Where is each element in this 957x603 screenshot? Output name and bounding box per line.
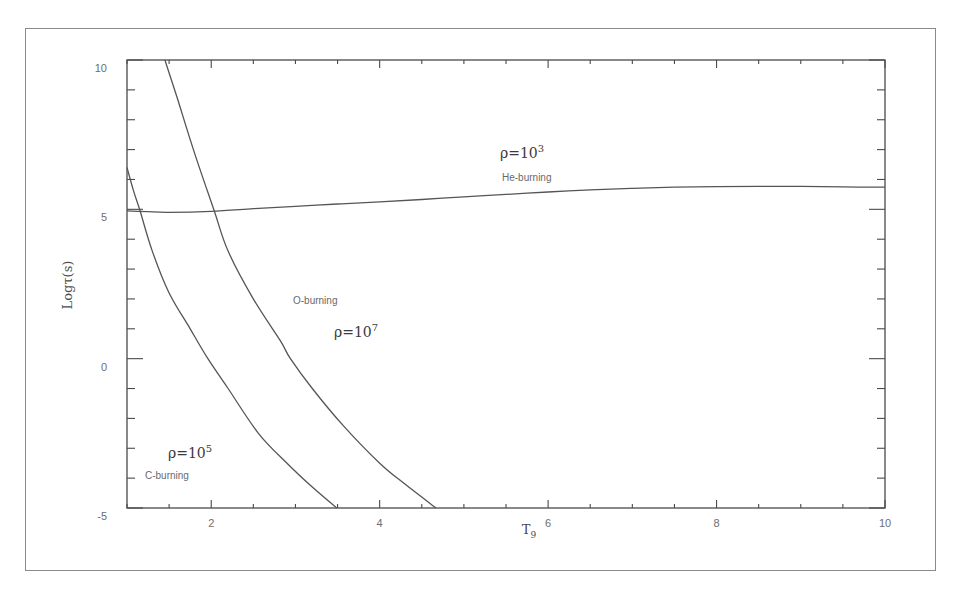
data-series: [127, 60, 885, 508]
o-density-label: ρ=107: [334, 322, 378, 340]
o-burning-label: O-burning: [293, 295, 337, 306]
c-density-label: ρ=105: [168, 443, 212, 461]
c-burning-curve: [127, 168, 337, 509]
x-tick-label: 8: [713, 517, 719, 529]
y-tick-label: 0: [101, 361, 107, 373]
y-axis-tick-labels: -50510: [95, 62, 107, 522]
y-axis-title: Logτ(s): [60, 261, 75, 310]
c-burning-annotation: ρ=105 C-burning: [145, 443, 212, 481]
o-burning-annotation: O-burning ρ=107: [293, 295, 378, 340]
he-burning-curve: [127, 186, 885, 212]
plot-area: [127, 60, 885, 508]
c-burning-label: C-burning: [145, 470, 189, 481]
x-tick-label: 10: [879, 517, 891, 529]
he-burning-label: He-burning: [502, 172, 551, 183]
chart: 246810 -50510 T9 Logτ(s) ρ=103 He-burnin…: [0, 0, 957, 603]
axis-ticks: [127, 60, 885, 508]
x-tick-label: 6: [545, 517, 551, 529]
x-tick-label: 4: [377, 517, 383, 529]
y-tick-label: 10: [95, 62, 107, 74]
y-tick-label: -5: [97, 510, 107, 522]
o-burning-curve: [165, 60, 436, 508]
he-burning-annotation: ρ=103 He-burning: [500, 143, 551, 183]
he-density-label: ρ=103: [500, 143, 544, 161]
x-tick-label: 2: [208, 517, 214, 529]
x-axis-title: T9: [522, 522, 537, 540]
y-tick-label: 5: [101, 211, 107, 223]
x-axis-tick-labels: 246810: [208, 517, 891, 529]
